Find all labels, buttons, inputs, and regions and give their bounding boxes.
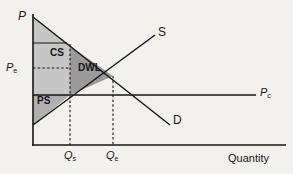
price-ceiling-label: Pc (260, 87, 271, 98)
quantity-equilibrium-label: Qe (106, 150, 118, 161)
price-ceiling-subscript: c (267, 92, 271, 99)
producer-surplus-label: PS (37, 96, 50, 106)
quantity-equilibrium-subscript: e (115, 155, 119, 162)
quantity-supplied-subscript: s (73, 155, 77, 162)
chart-canvas (0, 0, 293, 174)
deadweight-loss-label: DWL (78, 63, 101, 73)
quantity-supplied-main: Q (64, 149, 73, 161)
price-equilibrium-label: Pe (6, 62, 17, 73)
quantity-supplied-label: Qs (64, 150, 76, 161)
consumer-surplus-label: CS (50, 48, 64, 58)
supply-demand-diagram: P Pe Pc S D CS DWL PS Qs Qe Quantity (0, 0, 293, 174)
demand-curve-label: D (173, 114, 182, 126)
quantity-axis-label: Quantity (228, 153, 269, 164)
supply-curve-label: S (158, 26, 166, 38)
quantity-equilibrium-main: Q (106, 149, 115, 161)
price-equilibrium-subscript: e (13, 67, 17, 74)
price-axis-label: P (18, 10, 26, 22)
